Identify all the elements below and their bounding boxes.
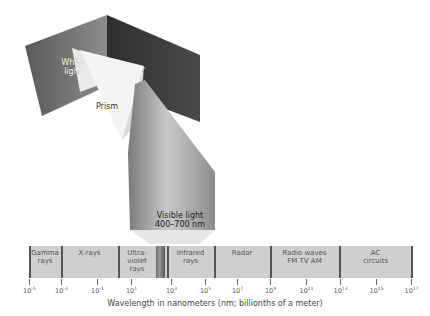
axis-tick	[306, 279, 307, 285]
prism-illustration	[0, 0, 430, 250]
axis-tick-label: 1015	[369, 286, 383, 295]
band-separator	[339, 246, 341, 278]
visible-light-label: Visible light	[150, 211, 210, 220]
axis-tick	[171, 279, 172, 285]
band-radio: Radio waves FM TV AM	[270, 246, 339, 278]
axis-tick-label: 10-5	[23, 286, 36, 295]
axis-tick-label: 101	[126, 286, 137, 295]
axis-tick-label: 1013	[333, 286, 347, 295]
band-separator	[214, 246, 216, 278]
band-separator	[29, 246, 31, 278]
axis-tick-label: 10-1	[91, 286, 104, 295]
prism-label: Prism	[92, 102, 122, 111]
band-infrared: Infrared rays	[167, 246, 214, 278]
band-separator	[118, 246, 120, 278]
axis-tick-label: 103	[166, 286, 177, 295]
band-radar: Radar	[214, 246, 270, 278]
band-separator	[411, 246, 413, 278]
axis-tick-label: 1017	[404, 286, 418, 295]
axis-tick	[205, 279, 206, 285]
electromagnetic-spectrum-figure: White light Prism Visible light 400–700 …	[0, 0, 430, 316]
axis-tick	[237, 279, 238, 285]
cone-bottom	[130, 230, 215, 244]
axis-tick-label: 105	[200, 286, 211, 295]
axis-tick	[376, 279, 377, 285]
axis-tick	[131, 279, 132, 285]
spectrum-band-bar: Gamma rays X-rays Ultra-violet rays Infr…	[29, 246, 412, 278]
axis-tick	[411, 279, 412, 285]
white-light-label: White light	[58, 58, 88, 76]
visible-range-label: 400–700 nm	[150, 220, 210, 229]
band-xrays: X-rays	[61, 246, 118, 278]
visible-light-strip	[156, 246, 165, 278]
band-separator	[167, 246, 169, 278]
band-gamma: Gamma rays	[29, 246, 61, 278]
axis-tick	[61, 279, 62, 285]
axis-tick-label: 1011	[299, 286, 313, 295]
axis-tick	[340, 279, 341, 285]
axis-tick	[29, 279, 30, 285]
axis-tick-label: 10-3	[55, 286, 68, 295]
axis-tick	[270, 279, 271, 285]
band-ultraviolet: Ultra-violet rays	[118, 246, 156, 278]
axis-tick	[97, 279, 98, 285]
band-separator	[270, 246, 272, 278]
axis-tick-label: 109	[265, 286, 276, 295]
axis-label: Wavelength in nanometers (nm; billionths…	[0, 299, 430, 308]
band-ac: AC circuits	[339, 246, 412, 278]
band-separator	[61, 246, 63, 278]
axis-tick-label: 107	[232, 286, 243, 295]
